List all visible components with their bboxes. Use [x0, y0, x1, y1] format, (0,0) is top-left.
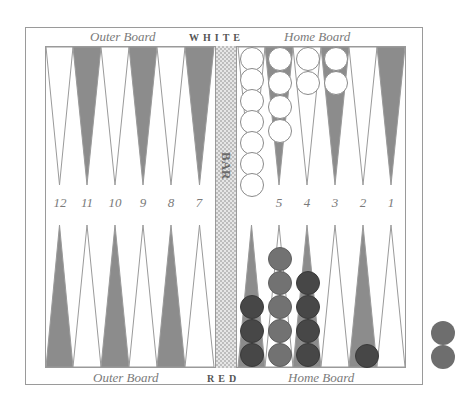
point-number-9: 9: [129, 195, 157, 211]
white-checker[interactable]: [268, 47, 292, 71]
point-number-7: 7: [185, 195, 213, 211]
point-24[interactable]: [377, 225, 405, 367]
point-15[interactable]: [101, 225, 129, 367]
point-13[interactable]: [46, 225, 73, 367]
point-1[interactable]: [377, 47, 405, 185]
point-12[interactable]: [46, 47, 73, 185]
white-checker[interactable]: [268, 71, 292, 95]
point-number-2: 2: [349, 195, 377, 211]
red-checker[interactable]: [240, 319, 264, 343]
white-checker[interactable]: [296, 47, 320, 71]
red-checker[interactable]: [296, 343, 320, 367]
point-14[interactable]: [73, 225, 101, 367]
point-11[interactable]: [73, 47, 101, 185]
white-checker[interactable]: [296, 71, 320, 95]
point-number-10: 10: [101, 195, 129, 211]
point-number-1: 1: [377, 195, 405, 211]
point-number-3: 3: [321, 195, 349, 211]
point-number-4: 4: [293, 195, 321, 211]
bar[interactable]: BAR: [215, 46, 237, 368]
point-22[interactable]: [321, 225, 349, 367]
point-9[interactable]: [129, 47, 157, 185]
point-number-12: 12: [46, 195, 74, 211]
point-number-8: 8: [157, 195, 185, 211]
red-checker[interactable]: [240, 343, 264, 367]
red-checker[interactable]: [268, 247, 292, 271]
bar-label: BAR: [218, 152, 234, 172]
point-16[interactable]: [129, 225, 157, 367]
red-checker[interactable]: [296, 271, 320, 295]
point-8[interactable]: [157, 47, 185, 185]
point-number-5: 5: [265, 195, 293, 211]
red-checker[interactable]: [296, 295, 320, 319]
point-17[interactable]: [157, 225, 185, 367]
borne-off-red-checker: [431, 321, 455, 345]
point-7[interactable]: [185, 47, 214, 185]
white-checker[interactable]: [268, 95, 292, 119]
point-10[interactable]: [101, 47, 129, 185]
borne-off-red-checker: [431, 345, 455, 369]
point-18[interactable]: [185, 225, 214, 367]
red-checker[interactable]: [268, 343, 292, 367]
white-checker[interactable]: [240, 173, 264, 197]
red-checker[interactable]: [268, 271, 292, 295]
white-checker[interactable]: [324, 47, 348, 71]
white-checker[interactable]: [268, 119, 292, 143]
point-number-11: 11: [73, 195, 101, 211]
white-checker[interactable]: [324, 71, 348, 95]
red-checker[interactable]: [355, 344, 379, 368]
red-checker[interactable]: [268, 295, 292, 319]
red-checker[interactable]: [296, 319, 320, 343]
red-checker[interactable]: [240, 295, 264, 319]
point-2[interactable]: [349, 47, 377, 185]
red-checker[interactable]: [268, 319, 292, 343]
